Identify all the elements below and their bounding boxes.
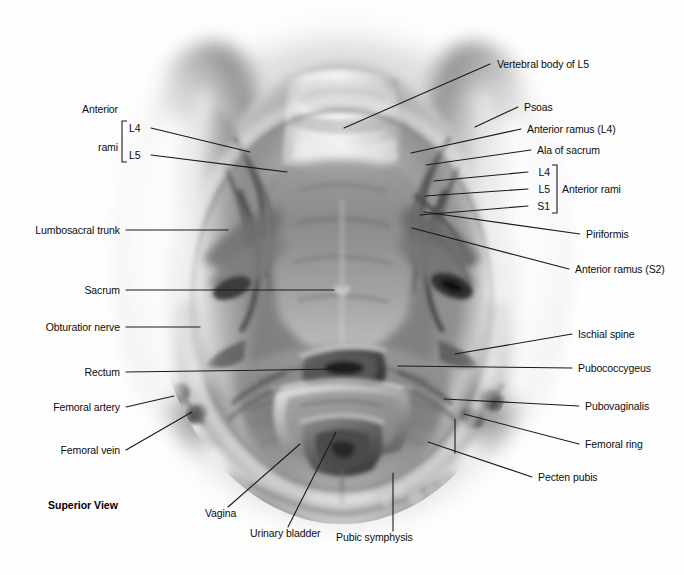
bracket-right-item-l5: L5 bbox=[478, 183, 550, 196]
bracket-right-item-l4: L4 bbox=[478, 166, 550, 179]
label-pubococcygeus: Pubococcygeus bbox=[578, 362, 651, 375]
bracket-right-title: Anterior rami bbox=[562, 183, 621, 196]
bracket-left-item-l4: L4 bbox=[129, 122, 140, 135]
label-vagina: Vagina bbox=[205, 507, 236, 520]
label-obturatior-nerve: Obturatior nerve bbox=[0, 321, 120, 334]
label-femoral-ring: Femoral ring bbox=[585, 438, 643, 451]
label-femoral-vein: Femoral vein bbox=[0, 444, 120, 457]
label-pubic-symphysis: Pubic symphysis bbox=[336, 531, 413, 544]
label-piriformis: Piriformis bbox=[586, 228, 629, 241]
label-lumbosacral-trunk: Lumbosacral trunk bbox=[0, 224, 120, 237]
label-rectum: Rectum bbox=[0, 366, 120, 379]
label-urinary-bladder: Urinary bladder bbox=[250, 527, 320, 540]
bracket-left-title: Anterior rami bbox=[36, 78, 118, 178]
label-femoral-artery: Femoral artery bbox=[0, 401, 120, 414]
label-anterior-ramus-l4: Anterior ramus (L4) bbox=[527, 123, 616, 136]
view-label: Superior View bbox=[48, 499, 118, 511]
figure-canvas: Anterior rami L4 L5 L4 L5 S1 Anterior ra… bbox=[0, 0, 684, 575]
label-psoas: Psoas bbox=[524, 101, 553, 114]
label-ala-of-sacrum: Ala of sacrum bbox=[537, 144, 600, 157]
label-anterior-ramus-s2: Anterior ramus (S2) bbox=[575, 263, 665, 276]
label-vertebral-body-of-l5: Vertebral body of L5 bbox=[497, 58, 589, 71]
label-ischial-spine: Ischial spine bbox=[578, 328, 634, 341]
label-pecten-pubis: Pecten pubis bbox=[538, 471, 598, 484]
bracket-left-item-l5: L5 bbox=[129, 149, 140, 162]
label-sacrum: Sacrum bbox=[0, 284, 120, 297]
label-pubovaginalis: Pubovaginalis bbox=[585, 400, 649, 413]
bracket-right-item-s1: S1 bbox=[478, 200, 550, 213]
